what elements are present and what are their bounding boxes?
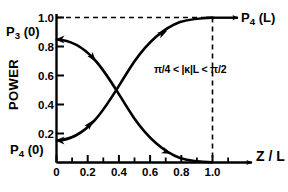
- y-axis-title: POWER: [7, 56, 20, 114]
- x-tick-label: 0.2: [80, 166, 96, 178]
- x-tick-label: 1.0: [205, 166, 221, 178]
- label-p3-zero-argument: (0): [20, 24, 40, 39]
- x-tick-labels: 0 0.2 0.4 0.6 0.8 1.0: [53, 166, 220, 178]
- label-p3-zero-main: P: [6, 24, 15, 39]
- curve-p4-growing: [57, 18, 212, 141]
- label-p4-zero-argument: (0): [24, 142, 44, 157]
- label-p4-at-L: P4 (L): [241, 11, 275, 26]
- x-tick-label: 0.6: [142, 166, 158, 178]
- label-p4-zero-main: P: [10, 142, 19, 157]
- direction-markers: [84, 28, 173, 157]
- label-p4-zero: P4 (0): [10, 143, 44, 158]
- x-tick-label: 0.4: [111, 166, 128, 178]
- power-transfer-chart: 1.0 0.8 0.6 0.4 0.2 0 0.: [0, 0, 288, 192]
- plot-canvas: 1.0 0.8 0.6 0.4 0.2 0 0.: [0, 0, 288, 192]
- x-tick-label: 0: [53, 166, 59, 178]
- y-tick-label: 0.4: [38, 99, 55, 111]
- x-tick-label: 0.8: [173, 166, 190, 178]
- y-tick-label: 0.2: [38, 128, 54, 140]
- y-tick-label: 0.6: [38, 70, 54, 82]
- label-p3-zero: P3 (0): [6, 25, 40, 40]
- y-tick-label: 0.8: [38, 41, 55, 53]
- y-tick-label: 1.0: [38, 12, 54, 24]
- y-tick-labels: 1.0 0.8 0.6 0.4 0.2: [38, 12, 55, 140]
- label-p4-L-argument: (L): [255, 10, 275, 25]
- label-p4-L-main: P: [241, 10, 250, 25]
- curve-p3-decaying: [57, 40, 212, 163]
- coupling-range-annotation: π/4 < |κ|L < π/2: [154, 64, 226, 75]
- x-axis-title: Z / L: [256, 149, 285, 163]
